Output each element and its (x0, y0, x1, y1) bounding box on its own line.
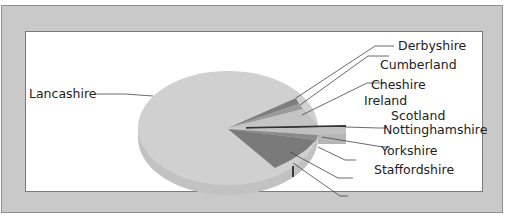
label-cumberland: Cumberland (380, 57, 457, 72)
pie-chart: Lancashire Derbyshire Cumberland Cheshir… (0, 0, 506, 217)
label-lancashire: Lancashire (29, 86, 97, 101)
label-derbyshire: Derbyshire (398, 38, 467, 53)
slice-staffordshire (292, 166, 294, 177)
label-ireland: Ireland (364, 93, 407, 108)
label-scotland: Scotland (391, 108, 445, 123)
label-nottinghamshire: Nottinghamshire (383, 122, 488, 137)
label-staffordshire: Staffordshire (374, 162, 454, 177)
label-cheshire: Cheshire (371, 77, 426, 92)
label-yorkshire: Yorkshire (380, 143, 438, 158)
